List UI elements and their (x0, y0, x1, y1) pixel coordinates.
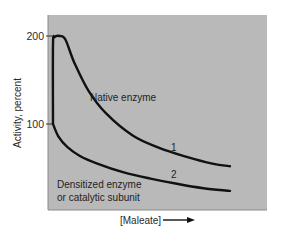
desensitized-label-line1: Densitized enzyme (57, 179, 142, 190)
chart: 200 100 Activity, percent Native enzyme … (0, 0, 282, 236)
arrow-right-icon (163, 217, 195, 223)
native-enzyme-label: Native enzyme (90, 92, 157, 103)
y-tick-label-100: 100 (26, 118, 44, 130)
y-tick-label-200: 200 (26, 30, 44, 42)
desensitized-label-line2: or catalytic subunit (57, 192, 140, 203)
y-axis-label: Activity, percent (12, 78, 23, 148)
x-axis-label: [Maleate] (120, 215, 161, 226)
curve-2-label: 2 (171, 169, 177, 180)
curve-1-label: 1 (171, 142, 177, 153)
